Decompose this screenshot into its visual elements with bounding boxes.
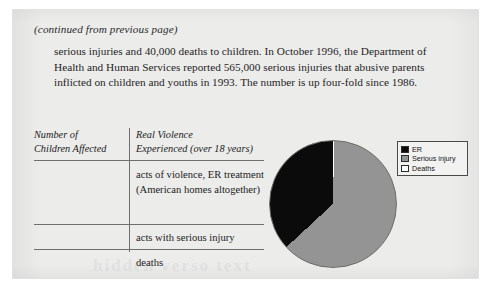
header-line-2: Experienced (over 18 years): [136, 142, 264, 156]
table-header-real-violence: Real Violence Experienced (over 18 years…: [136, 128, 264, 156]
scanned-page: (continued from previous page) serious i…: [13, 10, 478, 278]
pie-chart: [267, 136, 399, 270]
body-paragraph-block: serious injuries and 40,000 deaths to ch…: [54, 44, 458, 91]
table-cell-violence-3: deaths: [136, 256, 268, 271]
table-rule-2: [34, 249, 264, 250]
legend-label-deaths: Deaths: [412, 164, 435, 173]
header-line-1: Real Violence: [136, 128, 264, 142]
table-cell-violence-2: acts with serious injury: [136, 231, 268, 246]
legend-swatch-er: [401, 146, 409, 153]
legend-item-er: ER: [401, 145, 465, 154]
header-line-1: Number of: [34, 128, 130, 142]
legend-item-serious-injury: Serious injury: [401, 154, 465, 163]
legend-swatch-deaths: [401, 165, 409, 172]
table-header-number-affected: Number of Children Affected: [34, 128, 130, 156]
continued-note: (continued from previous page): [34, 23, 178, 35]
data-table: Number of Children Affected Real Violenc…: [34, 128, 264, 158]
header-line-2: Children Affected: [34, 142, 130, 156]
body-paragraph: serious injuries and 40,000 deaths to ch…: [54, 44, 458, 91]
legend-label-er: ER: [412, 145, 422, 154]
pie-chart-circle: [269, 140, 397, 268]
table-rule-1: [34, 224, 264, 225]
table-rule-top: [34, 160, 264, 161]
table-header-row: Number of Children Affected Real Violenc…: [34, 128, 264, 158]
chart-legend: ER Serious injury Deaths: [397, 141, 468, 176]
table-cell-violence-1: acts of violence, ER treatment (American…: [136, 168, 268, 197]
legend-item-deaths: Deaths: [401, 164, 465, 173]
legend-label-serious-injury: Serious injury: [412, 154, 456, 163]
legend-swatch-serious-injury: [401, 155, 409, 162]
